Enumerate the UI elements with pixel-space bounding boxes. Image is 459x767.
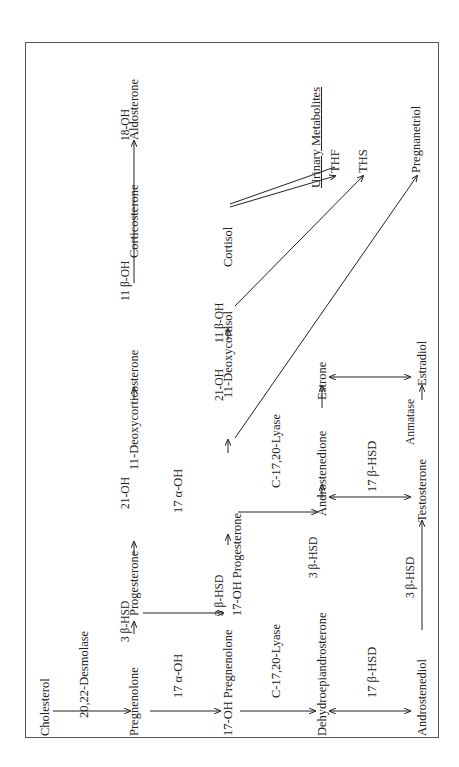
urinary-metabolites-heading: Urinary Metabolites [309,87,323,188]
compound-corticosterone: Corticosterone [127,184,141,258]
metabolite-pregnanetriol: Pregnanetriol [409,106,423,173]
compound-pregnenolone: Pregnenolone [127,667,141,736]
compound-cholesterol: Cholesterol [38,678,52,736]
compound-17oh-progesterone: 17-OH Progesterone [230,513,244,616]
compound-androstenedione: Androstenedione [315,431,329,516]
enzyme-17a-oh-1: 17 α-OH [171,654,185,698]
enzyme-lyase-2: C-17,20-Lyase [269,414,283,488]
compound-deoxycorticosterone: 11-Deoxycorticosterone [127,350,141,470]
enzyme-3b-hsd-2: 3 β-HSD [212,575,226,616]
metabolite-ths: THS [356,149,370,173]
compound-androstenediol: Androstenediol [415,659,429,736]
compound-testosterone: Testosterone [415,459,429,522]
compound-17oh-pregnenolone: 17-OH Pregnenolone [221,629,235,736]
enzyme-17a-oh-2: 17 α-OH [171,469,185,513]
enzyme-11b-oh-1: 11 β-OH [118,261,132,301]
compound-dhea: Dehydroepiandrosterone [315,612,329,736]
enzyme-17b-hsd-1: 17 β-HSD [365,647,379,698]
enzyme-aromatase: Anmatase [403,399,417,445]
pathway-canvas: Cholesterol 20,22-Desmolase Pregnenolone… [25,42,439,738]
enzyme-21-oh-1: 21-OH [118,477,132,509]
enzyme-3b-hsd-4: 3 β-HSD [403,557,417,598]
enzyme-11b-oh-2: 11 β-OH [212,303,226,343]
compound-aldosterone: Aldosterone [127,79,141,140]
enzyme-17b-hsd-2: 17 β-HSD [365,441,379,492]
enzyme-desmolase: 20,22-Desmolase [77,631,91,718]
compound-estrone: Estrone [315,362,329,400]
compound-cortisol: Cortisol [221,227,235,267]
compound-estradiol: Estradiol [415,341,429,386]
metabolite-thf: THF [328,149,342,173]
enzyme-lyase-1: C-17,20-Lyase [269,624,283,698]
enzyme-3b-hsd-3: 3 β-HSD [306,537,320,578]
compound-progesterone: Progesterone [127,551,141,616]
